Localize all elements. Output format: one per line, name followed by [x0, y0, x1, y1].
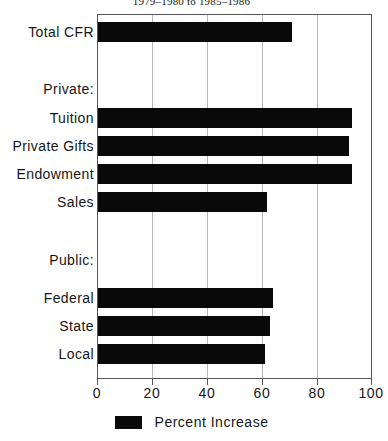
group-label-public: Public:: [0, 252, 94, 268]
xtick-label-80: 80: [295, 385, 339, 401]
bar-tuition: [98, 108, 352, 128]
category-label-federal: Federal: [0, 290, 94, 306]
bar-endowment: [98, 164, 352, 184]
bar-total-cfr: [98, 22, 292, 42]
category-label-local: Local: [0, 346, 94, 362]
legend-swatch-percent-increase: [115, 416, 142, 429]
bar-federal: [98, 288, 273, 308]
bar-local: [98, 344, 265, 364]
group-label-private: Private:: [0, 81, 94, 97]
bar-private-gifts: [98, 136, 349, 156]
category-label-private-gifts: Private Gifts: [0, 138, 94, 154]
category-label-state: State: [0, 318, 94, 334]
legend-label-percent-increase: Percent Increase: [155, 414, 269, 430]
bar-state: [98, 316, 270, 336]
xtick-label-100: 100: [349, 385, 388, 401]
xtick-label-0: 0: [75, 385, 119, 401]
gridline-80: [317, 15, 318, 378]
plot-area: [97, 14, 372, 379]
xtick-label-40: 40: [185, 385, 229, 401]
chart-title: 1979–1980 to 1985–1986: [0, 0, 383, 7]
chart-legend: Percent Increase: [0, 414, 383, 430]
category-label-endowment: Endowment: [0, 166, 94, 182]
category-label-total-cfr: Total CFR: [0, 24, 94, 40]
xtick-label-60: 60: [240, 385, 284, 401]
xtick-label-20: 20: [130, 385, 174, 401]
category-label-sales: Sales: [0, 194, 94, 210]
bar-sales: [98, 192, 267, 212]
category-label-tuition: Tuition: [0, 110, 94, 126]
